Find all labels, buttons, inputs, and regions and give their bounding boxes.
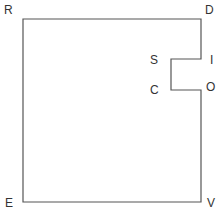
vertex-label-s: S [150, 53, 158, 67]
vertex-label-c: C [150, 83, 159, 97]
vertex-label-v: V [207, 196, 215, 208]
vertex-label-o: O [206, 80, 215, 94]
shape-diagram: R D I S C O V E [0, 0, 221, 208]
vertex-label-e: E [5, 196, 13, 208]
vertex-label-r: R [4, 3, 13, 17]
vertex-label-d: D [205, 3, 214, 17]
polygon-rdisocve [23, 19, 201, 202]
vertex-label-i: I [210, 53, 213, 67]
